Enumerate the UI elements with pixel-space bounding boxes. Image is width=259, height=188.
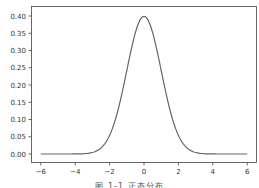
y-axis: 0.000.050.100.150.200.250.300.350.40 bbox=[10, 13, 31, 159]
y-tick-label: 0.15 bbox=[10, 99, 26, 107]
y-tick-label: 0.00 bbox=[10, 151, 26, 159]
y-tick-label: 0.30 bbox=[10, 47, 26, 55]
y-tick-label: 0.40 bbox=[10, 13, 26, 21]
x-tick-label: −6 bbox=[36, 168, 47, 176]
x-tick-label: 2 bbox=[176, 168, 180, 176]
pdf-curve bbox=[41, 16, 247, 154]
y-tick-label: 0.35 bbox=[10, 30, 26, 38]
y-tick-label: 0.05 bbox=[10, 133, 26, 141]
x-tick-label: 4 bbox=[211, 168, 216, 176]
x-tick-label: −2 bbox=[104, 168, 114, 176]
x-axis: −6−4−20246 bbox=[36, 163, 250, 177]
x-tick-label: 6 bbox=[245, 168, 250, 176]
x-tick-label: −4 bbox=[70, 168, 81, 176]
plot-frame bbox=[32, 7, 257, 163]
y-tick-label: 0.25 bbox=[10, 64, 26, 72]
y-tick-label: 0.20 bbox=[10, 82, 26, 90]
y-tick-label: 0.10 bbox=[10, 116, 26, 124]
normal-distribution-chart: 0.000.050.100.150.200.250.300.350.40 −6−… bbox=[0, 0, 259, 180]
figure-caption: 图 1-1 正态分布 bbox=[0, 180, 259, 188]
x-tick-label: 0 bbox=[142, 168, 146, 176]
